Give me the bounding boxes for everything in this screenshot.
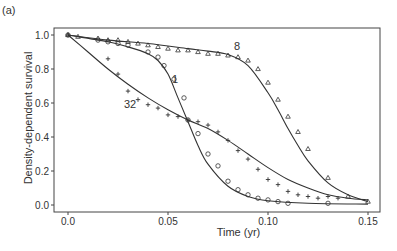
plus-marker	[286, 189, 290, 193]
circle-marker	[236, 188, 240, 192]
circle-marker	[266, 198, 270, 202]
y-tick-label: 0.6	[35, 98, 49, 109]
plus-marker	[256, 167, 260, 171]
y-tick-label: 1.0	[35, 30, 49, 41]
circle-marker	[226, 179, 230, 183]
triangle-marker	[246, 58, 251, 62]
plus-marker	[166, 113, 170, 117]
circle-marker	[286, 201, 290, 205]
plus-marker	[156, 106, 160, 110]
triangle-marker	[266, 80, 271, 84]
plus-marker	[266, 177, 270, 181]
circle-marker	[206, 152, 210, 156]
triangle-marker	[286, 114, 291, 118]
x-tick-label: 0.05	[158, 216, 178, 227]
circle-marker	[216, 164, 220, 168]
x-tick-label: 0.10	[258, 216, 278, 227]
circle-marker	[156, 55, 160, 59]
x-tick-label: 0.0	[61, 216, 75, 227]
plus-marker	[306, 194, 310, 198]
fit-curves	[68, 35, 368, 204]
plus-marker	[136, 97, 140, 101]
plus-marker	[106, 57, 110, 61]
series-label-32: 32	[124, 98, 136, 110]
x-tick-label: 0.15	[358, 216, 378, 227]
triangle-marker	[346, 194, 351, 198]
y-tick-label: 0.4	[35, 132, 49, 143]
plus-marker	[276, 182, 280, 186]
triangle-marker	[236, 55, 241, 59]
triangle-marker	[296, 130, 301, 134]
plus-marker	[146, 103, 150, 107]
triangle-marker	[326, 175, 331, 179]
plus-marker	[126, 89, 130, 93]
plus-marker	[236, 148, 240, 152]
y-tick-label: 0.8	[35, 64, 49, 75]
triangle-marker	[176, 48, 181, 52]
survival-chart: 0.00.050.100.150.00.20.40.60.81.0 8132	[0, 0, 397, 251]
plus-marker	[316, 196, 320, 200]
plus-marker	[246, 157, 250, 161]
triangle-marker	[166, 46, 171, 50]
triangle-marker	[256, 67, 261, 71]
triangle-marker	[306, 147, 311, 151]
y-tick-label: 0.0	[35, 200, 49, 211]
series-label-1: 1	[172, 73, 178, 85]
plus-marker	[296, 193, 300, 197]
y-tick-label: 0.2	[35, 166, 49, 177]
plus-marker	[206, 123, 210, 127]
triangle-marker	[276, 97, 281, 101]
circle-marker	[182, 96, 186, 100]
circle-marker	[196, 131, 200, 135]
fit-curve-32	[68, 35, 368, 200]
series-label-8: 8	[234, 40, 240, 52]
plus-marker	[176, 114, 180, 118]
